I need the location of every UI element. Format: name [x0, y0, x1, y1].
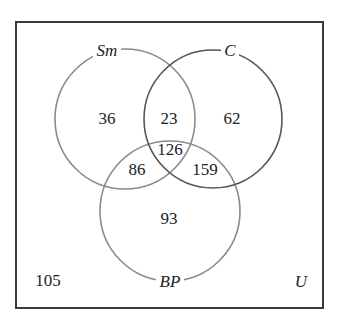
set-label-c: C — [224, 41, 236, 60]
universe-label: U — [295, 272, 309, 291]
set-label-bp: BP — [160, 272, 181, 291]
count-outside: 105 — [35, 271, 61, 290]
set-label-sm: Sm — [97, 41, 118, 60]
venn-diagram: Sm C BP 36 23 62 126 86 159 93 105 U — [0, 0, 344, 322]
count-sm-bp-only: 86 — [129, 160, 146, 179]
count-bp-only: 93 — [161, 209, 178, 228]
count-sm-c-only: 23 — [161, 109, 178, 128]
count-c-only: 62 — [224, 109, 241, 128]
count-sm-only: 36 — [99, 109, 116, 128]
count-c-bp-only: 159 — [192, 160, 218, 179]
count-sm-c-bp: 126 — [157, 140, 183, 159]
